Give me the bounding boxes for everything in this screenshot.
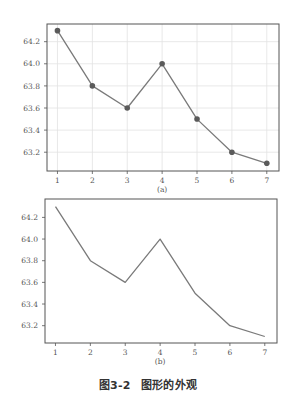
plot-frame [47,24,279,171]
x-tick-label: 3 [123,348,128,357]
panel-label: (a) [157,185,167,194]
caption-number: 图3-2 [99,379,131,392]
y-tick-label: 64.2 [21,213,38,222]
data-point-marker [264,160,270,166]
y-tick-label: 64.0 [23,59,40,68]
line-chart-b: 63.263.463.663.864.064.21234567(b) [21,199,277,366]
plot-frame [45,199,277,343]
y-tick-label: 63.6 [21,278,38,287]
data-series-line [56,207,265,337]
y-tick-label: 63.8 [23,82,40,91]
x-tick-label: 7 [264,176,269,185]
data-point-marker [90,83,96,89]
y-tick-label: 63.4 [21,300,38,309]
figure-canvas: 63.263.463.663.864.064.21234567(a)63.263… [0,0,296,370]
data-point-marker [229,149,235,155]
y-tick-label: 63.2 [21,321,38,330]
y-axis: 63.263.463.663.864.064.2 [21,213,45,330]
x-tick-label: 2 [90,176,95,185]
y-tick-label: 63.8 [21,256,38,265]
y-tick-label: 63.2 [23,148,40,157]
grid-lines [47,24,279,171]
data-point-marker [159,61,165,67]
line-chart-a: 63.263.463.663.864.064.21234567(a) [23,24,279,194]
x-tick-label: 6 [230,176,235,185]
y-tick-label: 64.2 [23,37,40,46]
x-tick-label: 1 [53,348,58,357]
data-point-marker [124,105,130,111]
y-tick-label: 63.4 [23,126,40,135]
x-tick-label: 3 [125,176,130,185]
data-point-marker [194,116,200,122]
x-tick-label: 2 [88,348,93,357]
figure-caption: 图3-2图形的外观 [0,376,296,392]
x-tick-label: 4 [158,348,163,357]
x-axis: 1234567 [55,171,269,185]
y-tick-label: 63.6 [23,104,40,113]
x-tick-label: 7 [262,348,267,357]
x-tick-label: 6 [228,348,233,357]
y-tick-label: 64.0 [21,235,38,244]
x-tick-label: 5 [195,176,200,185]
x-tick-label: 1 [55,176,60,185]
panel-label: (b) [155,357,166,366]
caption-text: 图形的外观 [141,379,198,392]
x-axis: 1234567 [53,343,267,357]
y-axis: 63.263.463.663.864.064.2 [23,37,47,157]
x-tick-label: 4 [160,176,165,185]
data-point-marker [55,28,61,34]
x-tick-label: 5 [193,348,198,357]
